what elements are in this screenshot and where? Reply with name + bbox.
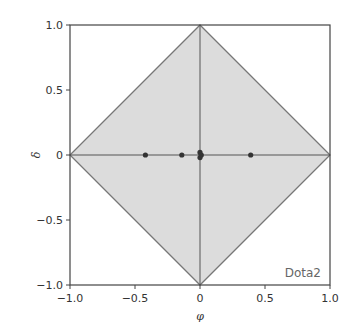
x-tick-label: −1.0: [57, 292, 84, 305]
x-tick-label: 0.5: [256, 292, 274, 305]
x-tick-label: 0: [197, 292, 204, 305]
data-point: [199, 152, 204, 157]
data-point: [248, 152, 253, 157]
data-point: [179, 152, 184, 157]
dataset-annotation: Dota2: [285, 266, 321, 280]
y-axis-label: δ: [30, 151, 43, 158]
y-tick-label: 0: [56, 149, 63, 162]
y-tick-label: −1.0: [36, 279, 63, 292]
y-tick-label: 0.5: [46, 84, 64, 97]
x-tick-label: 1.0: [321, 292, 339, 305]
y-tick-label: −0.5: [36, 214, 63, 227]
y-tick-label: 1.0: [46, 19, 64, 32]
chart: −1.0−0.500.51.0 −1.0−0.500.51.0 φ δ Dota…: [0, 0, 359, 331]
x-tick-label: −0.5: [122, 292, 149, 305]
data-point: [143, 152, 148, 157]
x-axis-label: φ: [196, 310, 204, 323]
x-axis-ticks: −1.0−0.500.51.0: [57, 285, 339, 305]
